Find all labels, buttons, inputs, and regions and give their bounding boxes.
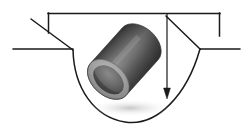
figure-canvas xyxy=(0,0,251,136)
pipe-body-frame xyxy=(80,16,169,108)
pipe-trench-figure xyxy=(0,0,251,136)
leader-line-left xyxy=(31,19,73,50)
pipe-group xyxy=(80,16,172,117)
depth-arrow-head xyxy=(164,88,171,99)
depth-arrow-group xyxy=(164,14,171,99)
pipe-ground-shadow xyxy=(88,99,172,117)
leader-line-right xyxy=(166,16,200,49)
